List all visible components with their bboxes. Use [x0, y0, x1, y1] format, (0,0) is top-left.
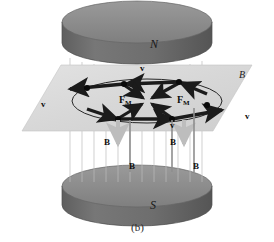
- velocity-arrow-top: [126, 82, 179, 84]
- velocity-label-top: v: [140, 64, 145, 73]
- b-label-upper-right: B: [170, 138, 176, 147]
- field-plane: [22, 65, 252, 131]
- particle-dot: [84, 85, 90, 91]
- north-pole-cylinder: [62, 1, 212, 64]
- b-label-lower-left: B: [129, 162, 135, 171]
- velocity-label-bottom: v: [170, 121, 175, 130]
- plane-field-label: B: [239, 70, 245, 80]
- magnetic-field-diagram: N S B v v v v FM FM B B B B (b): [0, 0, 274, 242]
- diagram-canvas: [0, 0, 274, 242]
- south-pole-label: S: [150, 199, 156, 211]
- force-label-right-sub: M: [183, 99, 190, 107]
- force-label-left-sub: M: [125, 99, 132, 107]
- velocity-label-left: v: [41, 100, 46, 109]
- force-label-left: FM: [119, 95, 132, 105]
- particle-dot: [204, 102, 210, 108]
- force-label-right: FM: [177, 95, 190, 105]
- north-pole-label: N: [150, 38, 158, 50]
- figure-caption: (b): [131, 222, 144, 233]
- south-pole-cylinder: [62, 165, 212, 226]
- particle-dot: [121, 81, 127, 87]
- b-label-lower-right: B: [193, 162, 199, 171]
- particle-dot: [176, 79, 182, 85]
- velocity-label-right: v: [245, 112, 250, 121]
- b-label-upper-left: B: [104, 138, 110, 147]
